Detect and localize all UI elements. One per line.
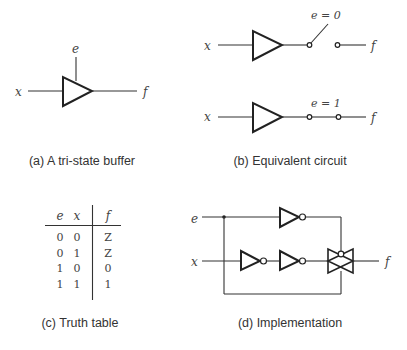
output-label-f: f (370, 111, 378, 125)
inverter-triangle-icon (241, 251, 260, 270)
inverter-bubble-icon (261, 258, 267, 264)
cell-e: 0 (57, 231, 64, 244)
panel-c-truth-table: e x f 0 0 Z 0 1 Z 1 0 0 1 1 1 (c) Truth … (41, 205, 121, 330)
condition-label: e = 0 (311, 9, 341, 22)
tri-state-buffer-figure: x e f (a) A tri-state buffer x f e = 0 x (0, 0, 407, 350)
caption-b: (b) Equivalent circuit (233, 154, 347, 168)
cell-e: 0 (57, 247, 64, 260)
cell-x: 0 (74, 262, 81, 275)
input-label-x: x (204, 110, 211, 124)
header-f: f (105, 209, 113, 223)
buffer-triangle-icon (253, 31, 282, 60)
input-label-x: x (191, 255, 198, 269)
cell-x: 1 (74, 278, 81, 291)
switch-terminal-icon (336, 115, 341, 120)
open-switch-lever-icon (311, 24, 328, 43)
output-label-f: f (384, 255, 392, 269)
output-label-f: f (142, 85, 150, 99)
transmission-gate-icon (328, 249, 353, 273)
caption-c: (c) Truth table (41, 316, 118, 330)
header-e: e (56, 209, 63, 223)
switch-terminal-icon (307, 43, 312, 48)
header-x: x (74, 209, 81, 223)
enable-label-e: e (191, 212, 198, 226)
cell-f: 1 (105, 278, 112, 291)
switch-terminal-icon (307, 115, 312, 120)
input-label-x: x (15, 85, 22, 99)
caption-d: (d) Implementation (238, 316, 342, 330)
buffer-triangle-icon (63, 77, 92, 106)
equivalent-closed-switch: x f e = 1 (204, 97, 378, 132)
inverter-bubble-icon (300, 214, 306, 220)
panel-a-tristate-buffer: x e f (a) A tri-state buffer (15, 42, 150, 168)
enable-label-e: e (72, 42, 79, 56)
table-row: 0 1 Z (57, 247, 113, 260)
condition-label: e = 1 (311, 97, 341, 110)
panel-b-equivalent-circuit: x f e = 0 x f e = 1 (b) Equivalent circu… (204, 9, 378, 168)
inverter-triangle-icon (280, 251, 299, 270)
cell-f: 0 (105, 262, 112, 275)
panel-d-implementation: e x f (d) Implementation (191, 208, 392, 330)
equivalent-open-switch: x f e = 0 (204, 9, 378, 60)
cell-e: 1 (57, 262, 64, 275)
cell-f: Z (104, 247, 112, 260)
inverter-bubble-icon (300, 258, 306, 264)
buffer-triangle-icon (253, 103, 282, 132)
cell-x: 0 (74, 231, 81, 244)
caption-a: (a) A tri-state buffer (29, 154, 135, 168)
inverter-triangle-icon (280, 208, 299, 227)
gate-bubble-icon (338, 251, 344, 257)
table-row: 1 0 0 (57, 262, 112, 275)
input-label-x: x (204, 39, 211, 53)
cell-f: Z (104, 231, 112, 244)
switch-terminal-icon (335, 43, 340, 48)
cell-x: 1 (74, 247, 81, 260)
table-row: 0 0 Z (57, 231, 113, 244)
cell-e: 1 (57, 278, 64, 291)
table-row: 1 1 1 (57, 278, 112, 291)
output-label-f: f (370, 39, 378, 53)
